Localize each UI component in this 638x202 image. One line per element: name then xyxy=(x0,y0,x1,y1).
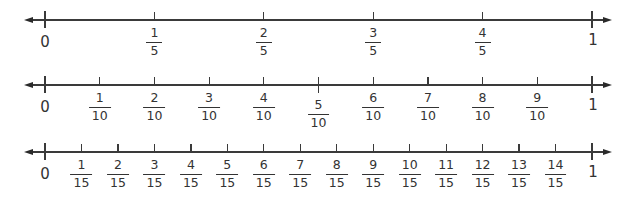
fraction-denominator: 15 xyxy=(253,177,275,190)
fraction-numerator: 6 xyxy=(366,92,380,105)
fraction-label: 915 xyxy=(362,159,384,189)
tick-3-5 xyxy=(373,12,374,20)
tick-5-10 xyxy=(318,77,319,93)
fraction-label: 315 xyxy=(143,159,165,189)
tick-zero xyxy=(44,143,45,160)
fraction-numerator: 2 xyxy=(147,92,161,105)
fraction-numerator: 1 xyxy=(74,159,88,172)
fraction-label: 35 xyxy=(365,27,381,57)
fraction-denominator: 5 xyxy=(147,45,161,58)
fraction-label: 515 xyxy=(216,159,238,189)
fraction-denominator: 15 xyxy=(289,177,311,190)
tick-13-15 xyxy=(518,144,519,152)
fraction-label: 210 xyxy=(143,92,165,122)
arrow-left-icon xyxy=(24,17,33,23)
fraction-numerator: 4 xyxy=(257,92,271,105)
fraction-label: 15 xyxy=(146,27,162,57)
fraction-denominator: 15 xyxy=(180,177,202,190)
fraction-numerator: 12 xyxy=(472,159,494,172)
label-zero: 0 xyxy=(40,167,50,182)
fraction-numerator: 8 xyxy=(476,92,490,105)
tick-zero xyxy=(44,11,45,28)
tick-4-15 xyxy=(190,144,191,152)
tick-4-10 xyxy=(263,77,264,85)
fraction-numerator: 14 xyxy=(545,159,567,172)
tick-one xyxy=(591,143,592,160)
tick-12-15 xyxy=(482,144,483,152)
fraction-label: 1415 xyxy=(545,159,567,189)
tick-11-15 xyxy=(446,144,447,152)
label-zero: 0 xyxy=(40,100,50,115)
fraction-denominator: 10 xyxy=(472,110,494,123)
fraction-label: 715 xyxy=(289,159,311,189)
fraction-numerator: 3 xyxy=(366,27,380,40)
fraction-denominator: 15 xyxy=(472,177,494,190)
fraction-numerator: 4 xyxy=(184,159,198,172)
fraction-numerator: 7 xyxy=(421,92,435,105)
fraction-denominator: 15 xyxy=(435,177,457,190)
fraction-denominator: 10 xyxy=(417,110,439,123)
tick-1-10 xyxy=(99,77,100,85)
fraction-numerator: 9 xyxy=(366,159,380,172)
tick-one xyxy=(591,76,592,93)
fraction-denominator: 5 xyxy=(366,45,380,58)
fraction-numerator: 3 xyxy=(147,159,161,172)
fraction-numerator: 8 xyxy=(330,159,344,172)
tick-2-10 xyxy=(154,77,155,85)
tick-14-15 xyxy=(555,144,556,152)
fraction-numerator: 7 xyxy=(293,159,307,172)
tick-2-15 xyxy=(117,144,118,152)
fraction-label: 110 xyxy=(89,92,111,122)
arrow-right-icon xyxy=(603,149,612,155)
tick-9-15 xyxy=(373,144,374,152)
fraction-denominator: 15 xyxy=(143,177,165,190)
fraction-denominator: 15 xyxy=(216,177,238,190)
fraction-denominator: 15 xyxy=(71,177,93,190)
fraction-label: 410 xyxy=(253,92,275,122)
tick-3-15 xyxy=(154,144,155,152)
tick-8-10 xyxy=(482,77,483,85)
fraction-numerator: 6 xyxy=(257,159,271,172)
fraction-numerator: 3 xyxy=(202,92,216,105)
fraction-denominator: 15 xyxy=(508,177,530,190)
arrow-left-icon xyxy=(24,82,33,88)
fraction-numerator: 5 xyxy=(312,99,326,112)
fraction-numerator: 4 xyxy=(476,27,490,40)
fraction-label: 115 xyxy=(71,159,93,189)
fraction-label: 1315 xyxy=(508,159,530,189)
fraction-numerator: 9 xyxy=(530,92,544,105)
fraction-denominator: 15 xyxy=(399,177,421,190)
axis-line xyxy=(30,19,605,21)
fraction-label: 310 xyxy=(198,92,220,122)
fraction-numerator: 2 xyxy=(257,27,271,40)
tick-5-15 xyxy=(227,144,228,152)
fraction-numerator: 10 xyxy=(399,159,421,172)
fraction-numerator: 1 xyxy=(93,92,107,105)
fraction-denominator: 15 xyxy=(107,177,129,190)
fraction-denominator: 15 xyxy=(545,177,567,190)
label-one: 1 xyxy=(588,165,598,180)
fraction-denominator: 10 xyxy=(143,110,165,123)
fraction-label: 25 xyxy=(256,27,272,57)
fraction-denominator: 5 xyxy=(257,45,271,58)
fraction-numerator: 2 xyxy=(111,159,125,172)
tick-3-10 xyxy=(209,77,210,85)
fraction-numerator: 11 xyxy=(435,159,457,172)
tick-6-10 xyxy=(373,77,374,85)
tick-4-5 xyxy=(482,12,483,20)
fraction-label: 810 xyxy=(472,92,494,122)
fraction-denominator: 15 xyxy=(362,177,384,190)
fraction-denominator: 10 xyxy=(362,110,384,123)
arrow-left-icon xyxy=(24,149,33,155)
fraction-label: 1215 xyxy=(472,159,494,189)
fraction-denominator: 10 xyxy=(526,110,548,123)
label-one: 1 xyxy=(588,33,598,48)
fraction-numerator: 5 xyxy=(220,159,234,172)
fraction-label: 415 xyxy=(180,159,202,189)
fraction-label: 815 xyxy=(326,159,348,189)
fraction-denominator: 5 xyxy=(476,45,490,58)
tick-2-5 xyxy=(263,12,264,20)
fraction-denominator: 10 xyxy=(308,117,330,130)
tick-9-10 xyxy=(537,77,538,85)
fraction-label: 45 xyxy=(475,27,491,57)
